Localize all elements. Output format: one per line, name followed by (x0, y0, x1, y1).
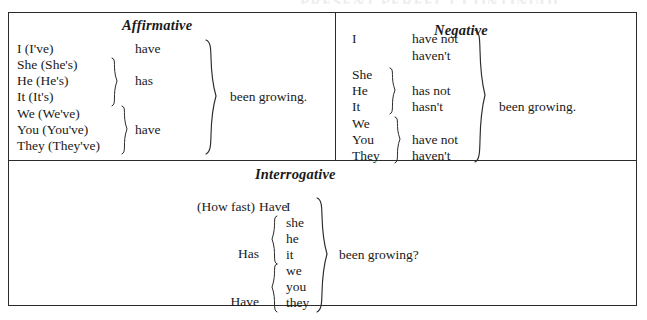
interrogative-aux-have-1: Have (259, 199, 287, 216)
panel-negative: Negative I She He It We You They have no… (336, 13, 638, 160)
negative-aux-have-not-1: have not (412, 31, 458, 48)
heading-interrogative: Interrogative (255, 166, 336, 183)
affirmative-brace-have-group (120, 105, 134, 155)
interrogative-adverbial: (How fast) (197, 199, 255, 216)
affirmative-subject-you: You (You've) (17, 122, 88, 139)
negative-subject-he: He (352, 83, 368, 100)
heading-affirmative: Affirmative (122, 17, 192, 34)
negative-aux-hasnt: hasn't (412, 99, 443, 116)
negative-subject-she: She (352, 67, 372, 84)
interrogative-subject-i: I (286, 199, 291, 216)
interrogative-subject-you: you (286, 279, 306, 296)
panel-affirmative: Affirmative I (I've) She (She's) He (He'… (9, 13, 335, 160)
affirmative-aux-have-1: have (135, 41, 160, 58)
affirmative-predicate: been growing. (230, 89, 307, 106)
interrogative-subject-she: she (286, 215, 304, 232)
negative-brace-she-he-it (388, 67, 402, 115)
interrogative-subject-it: it (286, 247, 294, 264)
interrogative-subject-they: they (286, 295, 309, 312)
negative-predicate: been growing. (499, 99, 576, 116)
conjugation-table: Affirmative I (I've) She (She's) He (He'… (8, 12, 637, 306)
panel-interrogative: Interrogative (How fast) Have Has Have I… (9, 161, 638, 307)
interrogative-brace-has-subjects (265, 215, 279, 265)
affirmative-subject-she: She (She's) (17, 57, 78, 74)
affirmative-subject-i: I (I've) (17, 41, 54, 58)
negative-subject-it: It (352, 99, 360, 116)
negative-subject-you: You (352, 132, 374, 149)
affirmative-subject-it: It (It's) (17, 89, 54, 106)
affirmative-aux-have-2: have (135, 122, 160, 139)
interrogative-subject-we: we (286, 263, 302, 280)
affirmative-brace-predicate (203, 39, 225, 155)
affirmative-brace-has-group (110, 57, 124, 107)
interrogative-aux-have-2: Have (209, 294, 259, 311)
interrogative-subject-he: he (286, 231, 299, 248)
page-top-cutoff-text: PRESENT PERFECT CONTINUOUS (300, 0, 560, 4)
negative-aux-havent-1: haven't (412, 48, 450, 65)
affirmative-aux-has: has (135, 73, 153, 90)
interrogative-brace-have-subjects (265, 263, 279, 313)
interrogative-predicate: been growing? (339, 247, 419, 264)
affirmative-subject-they: They (They've) (17, 138, 100, 155)
negative-subject-i: I (352, 31, 357, 48)
negative-aux-have-not-2: have not (412, 132, 458, 149)
affirmative-subject-we: We (We've) (17, 106, 80, 123)
negative-brace-we-you-they (393, 116, 407, 164)
interrogative-brace-predicate (314, 197, 336, 313)
negative-aux-has-not: has not (412, 83, 451, 100)
interrogative-aux-has: Has (209, 246, 259, 263)
negative-brace-predicate (472, 29, 494, 163)
affirmative-subject-he: He (He's) (17, 73, 69, 90)
negative-subject-we: We (352, 116, 370, 133)
